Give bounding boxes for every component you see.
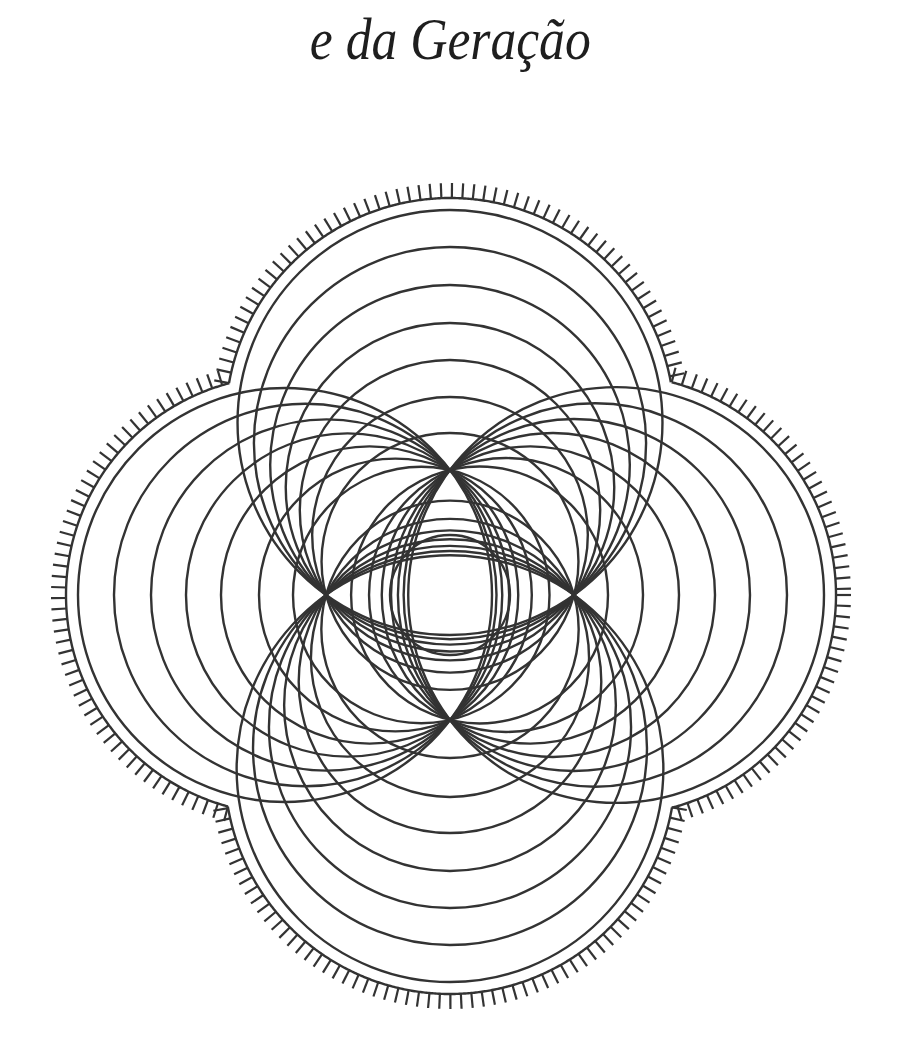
hatch-tick <box>833 555 848 558</box>
hatch-tick <box>363 979 368 993</box>
hatch-tick <box>619 264 630 274</box>
hatch-tick <box>625 273 637 282</box>
hatch-tick <box>139 412 148 424</box>
hatch-tick <box>207 374 212 388</box>
hatched-outer-boundary <box>51 183 851 1009</box>
hatch-tick <box>289 246 299 257</box>
hatch-tick <box>323 960 331 973</box>
hatch-tick <box>104 733 116 742</box>
hatch-tick <box>76 490 89 497</box>
hatch-tick <box>246 297 259 305</box>
hatch-tick <box>522 982 527 996</box>
hatch-tick <box>167 393 175 406</box>
hatch-tick <box>324 219 332 232</box>
hatch-tick <box>494 188 497 203</box>
hatch-tick <box>386 192 390 206</box>
hatch-tick <box>835 577 850 578</box>
hatch-tick <box>653 320 667 326</box>
hatch-tick <box>580 227 589 239</box>
hatch-tick <box>775 747 786 757</box>
hatch-tick <box>314 954 323 966</box>
hatch-tick <box>245 886 258 894</box>
hatch-tick <box>344 208 351 221</box>
hatch-tick <box>825 523 839 528</box>
hatch-tick <box>542 974 548 988</box>
hatch-tick <box>395 988 398 1003</box>
hatch-tick <box>62 660 76 664</box>
hatch-tick <box>524 196 529 210</box>
hatch-tick <box>119 749 130 760</box>
hatch-tick <box>373 982 378 996</box>
hatch-tick <box>257 904 269 913</box>
hatch-tick <box>514 193 518 207</box>
hatch-tick <box>818 502 832 508</box>
hatch-tick <box>396 189 399 204</box>
hatch-tick <box>239 877 252 884</box>
hatch-tick <box>462 183 463 198</box>
hatch-tick <box>52 576 67 577</box>
hatch-tick <box>273 261 284 271</box>
hatch-tick <box>55 554 70 557</box>
hatch-tick <box>806 705 819 713</box>
hatch-tick <box>406 990 409 1005</box>
hatch-tick <box>79 699 92 706</box>
hatch-tick <box>176 388 183 401</box>
hatch-tick <box>419 185 421 200</box>
hatch-tick <box>795 723 807 732</box>
hatch-tick <box>306 231 315 243</box>
hatch-tick <box>305 948 314 960</box>
hatch-tick <box>63 521 77 526</box>
hatch-tick <box>664 838 678 843</box>
hatch-tick <box>611 256 622 266</box>
hatch-tick <box>240 307 253 314</box>
hatch-tick <box>798 462 810 470</box>
hatch-tick <box>760 761 770 772</box>
hatch-tick <box>296 942 306 954</box>
hatch-tick <box>595 941 605 952</box>
hatch-tick <box>364 199 369 213</box>
hatch-tick <box>604 248 614 259</box>
hatch-tick <box>782 739 793 749</box>
hatch-tick <box>69 680 83 686</box>
hatch-tick <box>229 858 243 864</box>
hatch-tick <box>785 445 797 455</box>
hatch-tick <box>122 427 132 438</box>
hatch-tick <box>51 608 66 609</box>
hatch-tick <box>551 970 558 983</box>
hatch-tick <box>743 774 752 786</box>
right-boundary-arc <box>672 382 836 808</box>
hatch-tick <box>56 640 71 643</box>
hatch-tick <box>87 470 100 478</box>
hatch-tick <box>251 895 263 903</box>
coaxal-circles-diagram <box>0 0 901 1057</box>
hatch-tick <box>830 647 845 651</box>
hatch-tick <box>172 787 179 800</box>
hatch-tick <box>384 985 388 999</box>
hatch-tick <box>820 677 834 683</box>
hatch-tick <box>130 419 140 430</box>
hatch-tick <box>157 399 165 412</box>
hatch-tick <box>259 279 271 288</box>
hatch-tick <box>824 667 838 672</box>
hatch-tick <box>71 500 85 506</box>
hatch-tick <box>643 301 656 309</box>
hatch-tick <box>53 565 68 567</box>
hatch-tick <box>97 725 109 734</box>
hatch-tick <box>90 717 102 725</box>
hatch-tick <box>661 341 675 346</box>
hatch-tick <box>534 200 540 214</box>
hatch-tick <box>265 270 277 280</box>
hatch-tick <box>60 532 74 536</box>
hatch-tick <box>707 795 713 809</box>
hatch-tick <box>127 756 137 767</box>
hatch-tick <box>219 359 233 363</box>
hatch-tick <box>836 605 851 606</box>
bottom-lobe-circle <box>299 530 602 833</box>
hatch-tick <box>54 629 69 631</box>
hatch-tick <box>603 934 613 945</box>
hatch-tick <box>135 763 145 775</box>
hatch-tick <box>417 992 419 1007</box>
hatch-tick <box>512 985 516 999</box>
hatch-tick <box>315 225 323 237</box>
hatch-tick <box>657 331 671 337</box>
